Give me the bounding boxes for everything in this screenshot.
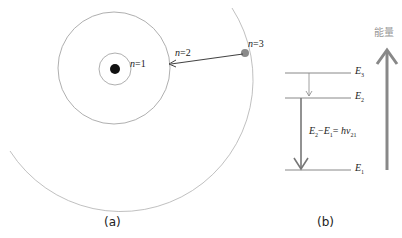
label-n1: n=1 [130, 58, 146, 69]
label-e1: E1 [355, 162, 364, 175]
bohr-model [10, 8, 253, 212]
energy-level-diagram [285, 50, 397, 170]
label-e3: E3 [355, 65, 364, 78]
orbit-n3-arc [10, 8, 253, 212]
nucleus-icon [110, 64, 120, 74]
label-n3: n=3 [248, 38, 264, 49]
electron-icon [241, 49, 249, 57]
label-n2: n=2 [175, 47, 191, 58]
caption-b: (b) [317, 215, 334, 229]
energy-equation: E2−E1= hν21 [309, 125, 356, 138]
caption-a: (a) [104, 215, 121, 229]
diagram-canvas [0, 0, 402, 238]
label-e2: E2 [355, 90, 364, 103]
energy-axis-label: 能量 [374, 24, 394, 39]
